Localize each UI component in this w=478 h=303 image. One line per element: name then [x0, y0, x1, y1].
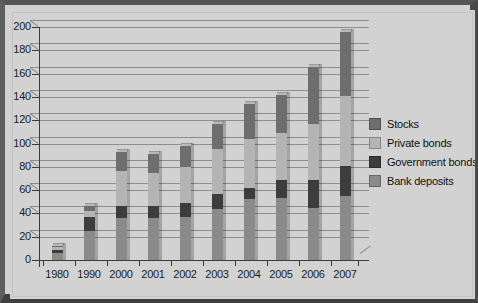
bar-segment[interactable]	[116, 152, 127, 172]
y-axis-tick-label: 140	[10, 90, 31, 102]
bar-side-face	[287, 92, 290, 260]
y-axis-tick-label: 160	[10, 67, 31, 79]
bar-stack[interactable]	[212, 124, 223, 260]
bar-stack[interactable]	[308, 67, 319, 260]
gridline-back	[30, 43, 369, 44]
bar-segment[interactable]	[244, 188, 255, 200]
legend-label: Bank deposits	[387, 175, 454, 187]
bar-stack[interactable]	[340, 32, 351, 260]
y-axis-tick	[32, 213, 39, 214]
y-axis-tick	[32, 50, 39, 51]
bar-segment[interactable]	[212, 124, 223, 150]
x-axis-tick	[267, 260, 268, 266]
bar-side-face	[191, 143, 194, 260]
bar-stack[interactable]	[148, 154, 159, 260]
y-axis-tick-label: 0	[10, 253, 31, 265]
bar-segment[interactable]	[212, 209, 223, 260]
x-axis-line	[39, 260, 369, 261]
x-axis-tick	[299, 260, 300, 266]
bar-segment[interactable]	[308, 208, 319, 260]
bar-segment[interactable]	[148, 218, 159, 260]
bar-segment[interactable]	[340, 196, 351, 260]
gridline-riser	[30, 113, 39, 120]
y-axis-tick	[32, 74, 39, 75]
y-axis-tick-label: 200	[10, 20, 31, 32]
bar-segment[interactable]	[244, 104, 255, 139]
bar-stack[interactable]	[180, 146, 191, 260]
legend-label: Stocks	[387, 118, 419, 130]
bar-segment[interactable]	[308, 67, 319, 124]
x-axis-tick	[171, 260, 172, 266]
bar-side-face	[223, 121, 226, 260]
bar-segment[interactable]	[212, 194, 223, 209]
x-axis-tick-label: 2007	[325, 268, 365, 280]
bar-segment[interactable]	[180, 167, 191, 203]
bar-stack[interactable]	[84, 206, 95, 260]
gridline-riser	[30, 43, 39, 50]
bar-segment[interactable]	[340, 96, 351, 166]
bar-side-face	[127, 149, 130, 260]
bar-segment[interactable]	[212, 149, 223, 193]
bar-side-face	[95, 203, 98, 260]
bar-stack[interactable]	[244, 104, 255, 260]
bar-segment[interactable]	[308, 124, 319, 180]
legend-label: Private bonds	[387, 137, 452, 149]
gridline-riser	[30, 183, 39, 190]
x-axis-tick	[75, 260, 76, 266]
bar-segment[interactable]	[276, 95, 287, 133]
bar-segment[interactable]	[180, 146, 191, 167]
legend-swatch	[369, 175, 381, 187]
bar-segment[interactable]	[244, 139, 255, 188]
legend-item[interactable]: Bank deposits	[369, 171, 469, 190]
y-axis-tick-label: 80	[10, 160, 31, 172]
y-axis-tick-label: 40	[10, 206, 31, 218]
gridline	[39, 50, 369, 51]
bar-segment[interactable]	[244, 199, 255, 260]
legend-item[interactable]: Private bonds	[369, 133, 469, 152]
gridline-riser	[30, 230, 39, 237]
bar-side-face	[255, 101, 258, 260]
x-axis-tick	[203, 260, 204, 266]
bar-stack[interactable]	[276, 95, 287, 260]
bar-segment[interactable]	[52, 253, 63, 260]
y-axis-tick	[32, 27, 39, 28]
legend-item[interactable]: Government bonds	[369, 152, 469, 171]
y-axis-line	[39, 27, 40, 267]
bar-stack[interactable]	[116, 152, 127, 260]
bar-segment[interactable]	[180, 217, 191, 260]
bar-side-face	[159, 151, 162, 260]
bar-segment[interactable]	[276, 133, 287, 180]
bar-segment[interactable]	[276, 198, 287, 260]
legend-item[interactable]: Stocks	[369, 114, 469, 133]
legend-label: Government bonds	[387, 156, 475, 168]
y-axis-tick	[32, 260, 39, 261]
chart-legend: StocksPrivate bondsGovernment bondsBank …	[369, 114, 469, 190]
x-axis-tick	[139, 260, 140, 266]
y-axis-tick	[32, 97, 39, 98]
bar-segment[interactable]	[84, 231, 95, 260]
bar-segment[interactable]	[148, 206, 159, 218]
bar-segment[interactable]	[116, 171, 127, 206]
bar-side-face	[63, 243, 66, 260]
bar-segment[interactable]	[308, 180, 319, 208]
gridline-riser	[30, 90, 39, 97]
bar-segment[interactable]	[84, 217, 95, 231]
gridline	[39, 27, 369, 28]
bar-segment[interactable]	[116, 206, 127, 218]
bar-side-face	[319, 64, 322, 260]
gridline-riser	[30, 137, 39, 144]
x-axis-tick	[43, 260, 44, 266]
bar-segment[interactable]	[340, 32, 351, 96]
legend-swatch	[369, 137, 381, 149]
bar-segment[interactable]	[340, 166, 351, 196]
gridline-riser	[30, 67, 39, 74]
bar-segment[interactable]	[148, 154, 159, 173]
bar-stack[interactable]	[52, 246, 63, 260]
x-axis-tick	[358, 260, 359, 266]
y-axis-tick	[32, 120, 39, 121]
bar-segment[interactable]	[276, 180, 287, 199]
bar-segment[interactable]	[116, 218, 127, 260]
bar-segment[interactable]	[148, 173, 159, 207]
x-axis-depth-edge	[360, 245, 371, 253]
bar-segment[interactable]	[180, 203, 191, 217]
